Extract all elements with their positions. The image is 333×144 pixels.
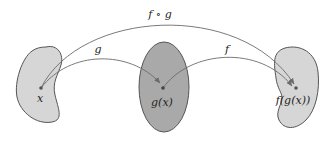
label-fog: f ∘ g	[147, 8, 172, 21]
point-gx	[161, 86, 165, 90]
label-f: f	[224, 43, 231, 56]
label-x: x	[37, 92, 44, 105]
label-fgx: f(g(x))	[275, 94, 310, 107]
point-fgx	[294, 86, 298, 90]
label-g: g	[94, 43, 101, 56]
label-gx: g(x)	[151, 96, 173, 109]
composition-diagram: f ∘ g g f x g(x) f(g(x))	[0, 0, 333, 144]
set-x-blob	[16, 46, 61, 122]
point-x	[39, 86, 43, 90]
